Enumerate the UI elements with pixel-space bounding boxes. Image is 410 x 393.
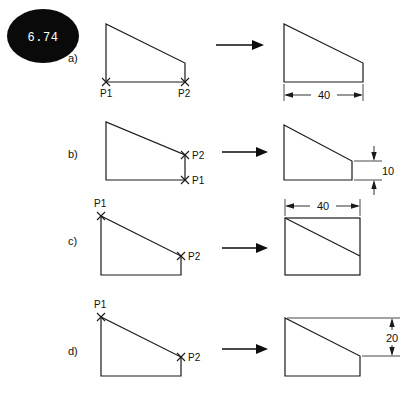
right-arrow-icon — [222, 243, 268, 253]
point-label-p2: P2 — [178, 88, 191, 99]
trapezoid-outline-result — [284, 125, 352, 180]
point-label-p2: P2 — [188, 251, 201, 262]
row-c: c) P1 P2 — [68, 198, 360, 275]
row-a-before-shape: P1 P2 — [100, 24, 191, 99]
row-label-c: c) — [68, 235, 77, 247]
badge-label: 6.74 — [28, 31, 59, 45]
trapezoid-outline — [106, 122, 185, 180]
dimension-value-40: 40 — [318, 89, 330, 101]
dimension-value-40: 40 — [317, 200, 329, 212]
point-label-p1: P1 — [100, 88, 113, 99]
rectangle-outline-result — [285, 218, 360, 275]
row-c-before-shape: P1 P2 — [94, 198, 201, 275]
point-label-p1: P1 — [94, 299, 107, 310]
row-d-after-shape: 20 — [285, 318, 404, 376]
row-label-a: a) — [68, 52, 78, 64]
right-arrow-icon — [222, 344, 268, 354]
point-label-p1: P1 — [192, 175, 205, 186]
right-arrow-icon — [222, 147, 268, 157]
dimension-value-10: 10 — [382, 165, 394, 177]
slope-line — [285, 218, 360, 256]
technical-drawing-figure: 6.74 a) P1 P2 — [0, 0, 410, 393]
row-c-after-shape: 40 — [285, 199, 360, 275]
row-d-before-shape: P1 P2 — [94, 299, 201, 376]
trapezoid-outline-result — [284, 24, 363, 82]
row-label-b: b) — [68, 148, 78, 160]
row-d: d) P1 P2 — [68, 299, 404, 376]
point-label-p2: P2 — [188, 352, 201, 363]
trapezoid-outline — [106, 24, 185, 82]
row-b-after-shape: 10 — [284, 125, 394, 195]
row-label-d: d) — [68, 345, 78, 357]
row-a-after-shape: 40 — [284, 24, 363, 102]
row-b: b) P2 P1 — [68, 122, 394, 195]
row-b-before-shape: P2 P1 — [106, 122, 205, 186]
right-arrow-icon — [216, 40, 264, 50]
trapezoid-outline — [101, 317, 181, 376]
dimension-value-20: 20 — [386, 332, 398, 344]
trapezoid-outline — [101, 216, 181, 275]
point-label-p1: P1 — [94, 198, 107, 209]
row-a: a) P1 P2 — [68, 24, 363, 102]
cut-rectangle-outline-result — [285, 318, 360, 376]
point-label-p2: P2 — [192, 150, 205, 161]
